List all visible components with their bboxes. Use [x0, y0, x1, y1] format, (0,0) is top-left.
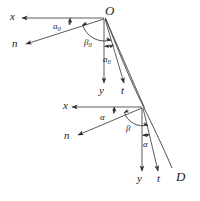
upper-t-axis	[105, 19, 124, 83]
point-label-O: O	[105, 4, 114, 17]
diagram-canvas	[0, 0, 200, 201]
upper-y-axis-label: y	[99, 85, 104, 96]
upper-n-axis	[26, 19, 104, 44]
upper-beta0-subscript: 0	[88, 41, 91, 48]
upper-alpha0-subscript: 0	[58, 25, 61, 32]
lower-n-axis-label: n	[64, 130, 70, 141]
upper-t-axis-label: t	[121, 85, 124, 96]
upper-alpha0-label-x-n: a0	[53, 22, 61, 31]
lower-t-axis-label: t	[157, 173, 160, 184]
chord-line-OP	[105, 18, 144, 107]
upper-beta0-label: β0	[84, 38, 92, 47]
lower-beta-tick-a	[124, 111, 128, 113]
lower-n-axis	[78, 108, 142, 135]
upper-alpha0-glyph: a	[53, 21, 58, 31]
lower-x-axis-label: x	[63, 100, 68, 111]
upper-alpha0-label-y-t: a0	[103, 55, 111, 64]
upper-n-axis-label: n	[12, 38, 18, 49]
lower-alpha-label-x-n: α	[100, 113, 105, 122]
upper-beta-arc-tick-b	[106, 39, 111, 41]
lower-y-axis-label: y	[137, 173, 142, 184]
upper-alpha0b-glyph: a	[103, 54, 108, 64]
geometry-diagram: O x n y t a0 β0 a0 x n y t α β α D	[0, 0, 200, 201]
point-label-D: D	[176, 170, 185, 183]
upper-x-axis-label: x	[10, 11, 15, 22]
lower-alpha-label-y-t: α	[143, 140, 148, 149]
upper-alpha0b-subscript: 0	[108, 58, 111, 65]
lower-beta-label: β	[126, 124, 130, 133]
